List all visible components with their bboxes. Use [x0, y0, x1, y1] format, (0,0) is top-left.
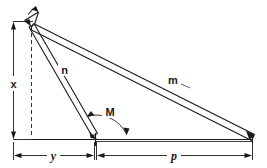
member-n-edge-right — [35, 25, 98, 134]
dimension-p-group: p — [97, 142, 253, 163]
apex-tip-tick — [28, 9, 33, 15]
member-m-edge-upper — [34, 24, 255, 135]
member-m-label-group: m — [165, 72, 190, 88]
dimension-p-label: p — [170, 149, 177, 163]
member-m-label: m — [168, 74, 178, 86]
apex-vertex-group — [24, 6, 39, 27]
dimension-x-arrowhead-bottom — [11, 132, 16, 140]
dimension-x-arrowhead-top — [11, 22, 16, 30]
dimension-y-label: y — [49, 149, 57, 163]
diagram-canvas: x M n m — [0, 0, 267, 168]
dimension-x-group: x — [8, 22, 33, 140]
angle-M-arrowhead-start — [87, 111, 95, 117]
dimension-y-group: y — [14, 142, 95, 163]
angle-M-arrowhead-end — [124, 128, 130, 136]
member-m-leader-line — [181, 84, 190, 88]
technical-diagram: x M n m — [0, 0, 267, 168]
angle-M-group: M — [87, 104, 130, 136]
angle-M-label: M — [105, 106, 114, 118]
member-n-label: n — [61, 64, 68, 76]
dimension-p-arrowhead-left — [97, 153, 105, 158]
member-n-edge-left — [29, 27, 92, 136]
baseline-group — [31, 140, 252, 142]
dimension-y-arrowhead-right — [87, 153, 95, 158]
dimension-y-arrowhead-left — [14, 153, 22, 158]
dimension-p-arrowhead-right — [245, 153, 253, 158]
member-m-beam — [31, 24, 255, 141]
member-m-edge-lower — [31, 30, 252, 141]
dimension-x-label: x — [10, 78, 17, 90]
member-n-beam — [29, 25, 98, 140]
member-n-label-group: n — [58, 62, 71, 76]
